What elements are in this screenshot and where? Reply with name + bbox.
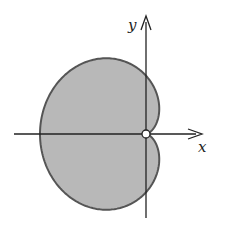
y-axis-label: y (127, 16, 137, 34)
x-axis-label: x (198, 138, 207, 156)
cardioid-diagram: x y (0, 0, 226, 230)
origin-open-circle-icon (142, 130, 150, 138)
